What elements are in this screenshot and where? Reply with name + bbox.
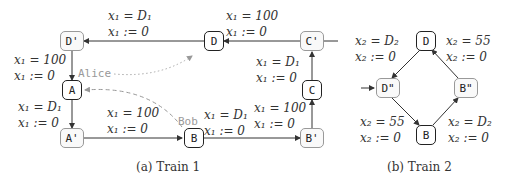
guard-aprime-b: x₁ = 100x₁ := 0 (107, 105, 159, 137)
node-d: D (204, 31, 224, 51)
guard-b-bprime: x₁ = D₁x₁ := 0 (204, 107, 248, 139)
node-c: C (302, 80, 322, 100)
caption-train1: (a) Train 1 (136, 160, 200, 174)
caption-train2: (b) Train 2 (387, 160, 452, 174)
guard2-ddprime-b: x₂ = 55x₂ := 0 (360, 114, 405, 146)
guard2-d-ddprime: x₂ = D₂x₂ := 0 (355, 33, 399, 65)
alice-label: Alice (78, 67, 111, 80)
guard-c-cprime: x₁ = D₁x₁ := 0 (256, 54, 300, 86)
guard-d-dprime: x₁ = D₁x₁ := 0 (108, 8, 152, 40)
guard-bprime-c: x₁ = 100x₁ := 0 (254, 100, 306, 132)
node2-d-dprime: D" (376, 78, 400, 98)
node-a-prime: A' (60, 128, 84, 148)
bob-label: Bob (178, 115, 198, 128)
node-b: B (184, 128, 204, 148)
node-d-prime: D' (60, 31, 84, 51)
guard-cprime-d: x₁ = 100x₁ := 0 (226, 8, 278, 40)
node2-b-dprime: B" (454, 78, 478, 98)
guard2-b-bdprime: x₂ = D₂x₂ := 0 (448, 114, 492, 146)
guard-dprime-a: x₁ = 100x₁ := 0 (14, 52, 66, 84)
guard-a-aprime: x₁ = D₁x₁ := 0 (18, 99, 62, 131)
node2-b: B (416, 125, 436, 145)
guard2-bdprime-d: x₂ = 55x₂ := 0 (446, 33, 491, 65)
node-c-prime: C' (300, 31, 324, 51)
alice-path (114, 56, 192, 75)
node2-d: D (416, 31, 436, 51)
